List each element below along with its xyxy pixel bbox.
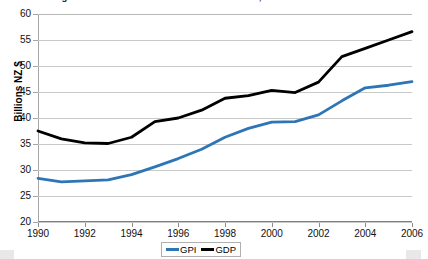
- x-axis-tick-label: 2004: [345, 228, 385, 239]
- y-axis-tick-label: 25: [1, 191, 31, 201]
- plot-area: [38, 14, 412, 222]
- x-axis-tick-label: 1996: [158, 228, 198, 239]
- x-axis-tick-label: 2000: [252, 228, 292, 239]
- y-axis-tick-label: 40: [1, 113, 31, 123]
- y-axis-tick-label: 30: [1, 165, 31, 175]
- x-axis-tick-1996: [178, 223, 179, 227]
- legend-label: GDP: [215, 245, 236, 255]
- x-axis-tick-1998: [225, 223, 226, 227]
- legend-line-swatch: [201, 248, 214, 251]
- x-axis-tick-label: 2006: [392, 228, 428, 239]
- scan-artifact: [406, 250, 421, 259]
- x-axis-tick-labels: 199019921994199619982000200220042006: [38, 223, 412, 241]
- x-axis-tick-1990: [38, 223, 39, 227]
- x-axis-tick-2002: [319, 223, 320, 227]
- x-axis-tick-2004: [365, 223, 366, 227]
- x-axis-tick-label: 1990: [18, 228, 58, 239]
- y-axis-tick-label: 50: [1, 61, 31, 71]
- y-axis-tick-label: 60: [1, 9, 31, 19]
- y-axis-tick-label: 55: [1, 35, 31, 45]
- chart-legend: GPIGDP: [161, 242, 241, 257]
- legend-entry-gpi: GPI: [166, 245, 196, 255]
- x-axis-tick-label: 1994: [112, 228, 152, 239]
- scan-artifact: [0, 250, 14, 259]
- legend-label: GPI: [180, 245, 196, 255]
- y-axis-tick-label: 45: [1, 87, 31, 97]
- x-axis-tick-1992: [85, 223, 86, 227]
- y-axis-tick-label: 35: [1, 139, 31, 149]
- legend-entry-gdp: GDP: [201, 245, 236, 255]
- gpi-series-line: [38, 82, 412, 182]
- y-axis-tick-label: 20: [1, 217, 31, 227]
- x-axis-tick-2006: [412, 223, 413, 227]
- gdp-series-line: [38, 32, 412, 144]
- legend-line-swatch: [166, 248, 179, 251]
- series-group: [38, 14, 412, 222]
- x-axis-tick-2000: [272, 223, 273, 227]
- x-axis-tick-label: 1992: [65, 228, 105, 239]
- x-axis-tick-label: 2002: [299, 228, 339, 239]
- x-axis-tick-label: 1998: [205, 228, 245, 239]
- x-axis-tick-1994: [132, 223, 133, 227]
- chart-title: Genuine Progress Indicator and Gross Dom…: [6, 0, 306, 3]
